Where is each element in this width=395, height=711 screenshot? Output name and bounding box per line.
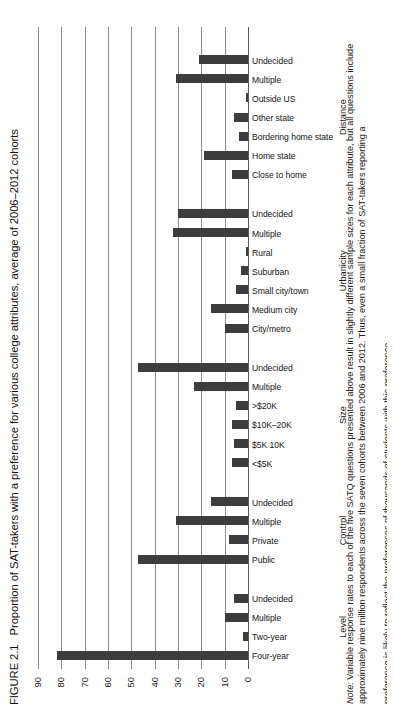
category-label-urbanicity-2: Small city/town (252, 286, 309, 296)
category-label-size-3: >$20K (252, 401, 277, 411)
category-label-size-0: <$5K (252, 459, 272, 469)
bar-control-0 (138, 555, 248, 564)
bar-control-1 (229, 536, 248, 545)
y-axis-tick-30: 30 (172, 677, 183, 687)
y-axis-tick-70: 70 (79, 677, 90, 687)
category-label-distance-1: Home state (252, 151, 295, 161)
category-label-urbanicity-3: Suburban (252, 267, 289, 277)
gridline-90 (38, 27, 39, 669)
bar-urbanicity-1 (211, 305, 248, 314)
category-label-urbanicity-1: Medium city (252, 305, 297, 315)
category-label-urbanicity-5: Multiple (252, 229, 281, 239)
category-label-size-2: $10K–20K (252, 421, 292, 431)
chart-plot-area: 0102030405060708090Four-yearTwo-yearMult… (38, 27, 248, 669)
bar-distance-5 (176, 74, 248, 83)
note-line-3: preference is likely to reflect the pref… (381, 14, 387, 704)
category-label-urbanicity-4: Rural (252, 248, 272, 258)
note-line-1: Variable response rates to each of the f… (345, 75, 355, 680)
y-axis-tick-60: 60 (102, 677, 113, 687)
bar-urbanicity-0 (225, 324, 248, 333)
y-axis-tick-0: 0 (242, 677, 253, 682)
bar-distance-6 (199, 55, 248, 64)
y-axis-tick-50: 50 (125, 677, 136, 687)
bar-level-3 (234, 594, 248, 603)
category-label-urbanicity-0: City/metro (252, 324, 291, 334)
bar-urbanicity-4 (246, 247, 248, 256)
bar-size-3 (236, 401, 248, 410)
bar-level-1 (243, 632, 248, 641)
bar-size-1 (234, 439, 248, 448)
bar-size-0 (232, 458, 248, 467)
gridline-70 (85, 27, 86, 669)
category-label-distance-5: Multiple (252, 75, 281, 85)
gridline-0 (248, 27, 249, 669)
category-label-distance-4: Outside US (252, 94, 295, 104)
bar-size-2 (232, 420, 248, 429)
category-label-level-1: Two-year (252, 632, 287, 642)
note-label: Note: (345, 682, 355, 704)
gridline-80 (61, 27, 62, 669)
figure-title: FIGURE 2.1Proportion of SAT-takers with … (8, 5, 20, 705)
y-axis-tick-80: 80 (55, 677, 66, 687)
figure-note: Note: Variable response rates to each of… (344, 14, 369, 704)
gridline-30 (178, 27, 179, 669)
figure-page: FIGURE 2.1Proportion of SAT-takers with … (0, 0, 395, 711)
bar-level-2 (225, 613, 248, 622)
figure-number: FIGURE 2.1 (8, 644, 20, 705)
category-label-level-3: Undecided (252, 594, 293, 604)
gridline-60 (108, 27, 109, 669)
category-label-level-2: Multiple (252, 613, 281, 623)
category-label-distance-6: Undecided (252, 56, 293, 66)
category-label-distance-0: Close to home (252, 170, 307, 180)
bar-urbanicity-2 (236, 285, 248, 294)
bar-urbanicity-5 (173, 228, 248, 237)
category-label-size-5: Undecided (252, 363, 293, 373)
category-label-level-0: Four-year (252, 652, 289, 662)
y-axis-tick-90: 90 (32, 677, 43, 687)
category-label-control-3: Undecided (252, 498, 293, 508)
bar-distance-2 (239, 132, 248, 141)
bar-level-0 (57, 651, 248, 660)
figure-canvas: FIGURE 2.1Proportion of SAT-takers with … (0, 0, 395, 711)
gridline-50 (131, 27, 132, 669)
category-label-distance-3: Other state (252, 113, 294, 123)
y-axis-tick-20: 20 (195, 677, 206, 687)
category-label-control-2: Multiple (252, 517, 281, 527)
gridline-10 (225, 27, 226, 669)
bar-control-2 (176, 516, 248, 525)
category-label-size-4: Multiple (252, 382, 281, 392)
bar-distance-3 (234, 113, 248, 122)
y-axis-tick-10: 10 (219, 677, 230, 687)
gridline-40 (155, 27, 156, 669)
category-label-distance-2: Bordering home state (252, 132, 333, 142)
bar-size-4 (194, 382, 248, 391)
gridline-20 (201, 27, 202, 669)
bar-size-5 (138, 363, 248, 372)
bar-distance-0 (232, 170, 248, 179)
y-axis-tick-40: 40 (149, 677, 160, 687)
category-label-urbanicity-6: Undecided (252, 210, 293, 220)
category-label-control-0: Public (252, 555, 275, 565)
category-label-size-1: $5K 10K (252, 440, 285, 450)
bar-urbanicity-3 (241, 266, 248, 275)
figure-title-text: Proportion of SAT-takers with a preferen… (8, 129, 20, 635)
category-label-control-1: Private (252, 536, 278, 546)
bar-distance-1 (204, 151, 248, 160)
bar-urbanicity-6 (178, 209, 248, 218)
bar-distance-4 (246, 94, 248, 103)
bar-control-3 (211, 497, 248, 506)
